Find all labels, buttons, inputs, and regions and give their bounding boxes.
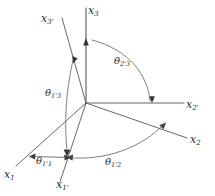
axis-line-x2	[86, 103, 187, 138]
axis-label-x1: x1	[4, 165, 15, 182]
axis-label-x2: x2	[190, 130, 201, 147]
axis-label-x3: x3	[88, 1, 99, 18]
arc-theta-2-prime-3	[92, 40, 150, 101]
axis-label-x3-prime: x3'	[41, 9, 54, 26]
angle-label-theta-1-prime-1: θ1'1	[36, 151, 52, 167]
axis-label-x1-prime: x1'	[56, 175, 69, 192]
arrowhead-x3-icon	[83, 38, 89, 46]
arc-theta-1-prime-3	[66, 62, 73, 150]
angle-label-theta-1-prime-2: θ1'2	[105, 152, 121, 168]
angle-label-theta-1-prime-3: θ1'3	[45, 83, 61, 99]
axis-label-x2-prime: x2'	[186, 95, 199, 112]
rotation-diagram-figure: x3 x3' x2' x2 x1 x1' θ2'3 θ1'3 θ1'1 θ1'2	[0, 0, 215, 196]
angle-label-theta-2-prime-3: θ2'3	[114, 51, 130, 67]
